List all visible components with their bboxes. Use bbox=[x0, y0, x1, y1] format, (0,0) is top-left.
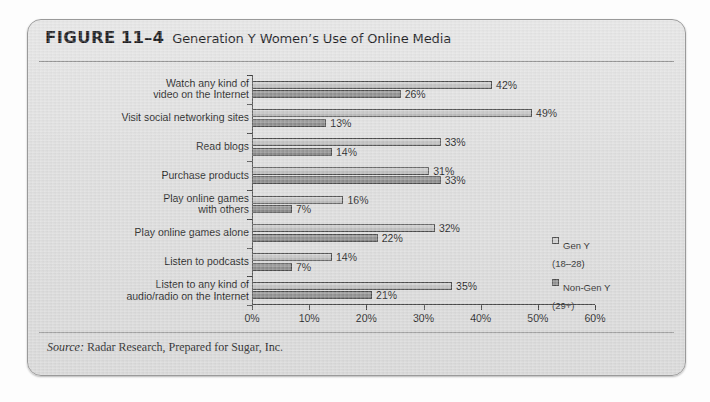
category-label: Read blogs bbox=[49, 141, 249, 153]
chart-legend: Gen Y (18–28)Non-Gen Y (29+) bbox=[552, 235, 632, 319]
category-tick bbox=[247, 248, 252, 249]
bar-value-label: 26% bbox=[405, 89, 426, 99]
bar-non-gen-y bbox=[252, 205, 292, 213]
category-tick bbox=[247, 104, 252, 105]
bar-value-label: 33% bbox=[445, 175, 466, 185]
chart-area: Watch any kind of video on the InternetV… bbox=[28, 62, 686, 320]
category-label: Play online games alone bbox=[49, 227, 249, 239]
bar-gen-y bbox=[252, 224, 435, 232]
figure-number: 11–4 bbox=[121, 28, 165, 47]
category-axis-labels: Watch any kind of video on the InternetV… bbox=[132, 75, 249, 305]
category-tick bbox=[247, 75, 252, 76]
category-label: Listen to any kind of audio/radio on the… bbox=[49, 279, 249, 302]
bar-non-gen-y bbox=[252, 234, 378, 242]
bar-gen-y bbox=[252, 167, 429, 175]
plot-region: 42%26%49%13%33%14%31%33%16%7%32%22%14%7%… bbox=[252, 75, 595, 305]
bar-non-gen-y bbox=[252, 291, 372, 299]
x-axis-tick bbox=[309, 305, 310, 310]
legend-label: Non-Gen Y (29+) bbox=[552, 282, 610, 311]
legend-swatch-non-gen-y bbox=[552, 279, 559, 286]
figure-label-word: FIGURE bbox=[45, 28, 116, 47]
bar-value-label: 32% bbox=[439, 223, 460, 233]
figure-panel: FIGURE11–4Generation Y Women’s Use of On… bbox=[27, 19, 686, 376]
legend-item: Non-Gen Y (29+) bbox=[552, 277, 632, 313]
category-label: Listen to podcasts bbox=[49, 256, 249, 268]
bar-value-label: 33% bbox=[445, 137, 466, 147]
x-axis-tick bbox=[481, 305, 482, 310]
legend-label: Gen Y (18–28) bbox=[552, 240, 590, 269]
category-tick bbox=[247, 133, 252, 134]
x-axis-tick-label: 20% bbox=[344, 312, 388, 324]
category-tick bbox=[247, 305, 252, 306]
bar-value-label: 49% bbox=[536, 108, 557, 118]
bar-non-gen-y bbox=[252, 263, 292, 271]
x-axis-tick-label: 40% bbox=[459, 312, 503, 324]
bar-value-label: 7% bbox=[296, 204, 311, 214]
bar-gen-y bbox=[252, 81, 492, 89]
category-tick bbox=[247, 219, 252, 220]
bar-non-gen-y bbox=[252, 176, 441, 184]
x-axis-tick-label: 30% bbox=[402, 312, 446, 324]
bar-gen-y bbox=[252, 253, 332, 261]
bar-non-gen-y bbox=[252, 119, 326, 127]
category-label: Purchase products bbox=[49, 170, 249, 182]
bar-value-label: 22% bbox=[382, 233, 403, 243]
bar-non-gen-y bbox=[252, 90, 401, 98]
figure-caption: FIGURE11–4Generation Y Women’s Use of On… bbox=[45, 28, 451, 47]
bar-non-gen-y bbox=[252, 148, 332, 156]
category-label: Visit social networking sites bbox=[49, 112, 249, 124]
bar-value-label: 14% bbox=[336, 252, 357, 262]
legend-item: Gen Y (18–28) bbox=[552, 235, 632, 271]
category-label: Watch any kind of video on the Internet bbox=[49, 78, 249, 101]
source-label: Source: bbox=[47, 340, 84, 354]
bar-value-label: 7% bbox=[296, 262, 311, 272]
category-label: Play online games with others bbox=[49, 193, 249, 216]
figure-title: Generation Y Women’s Use of Online Media bbox=[172, 31, 451, 46]
category-tick bbox=[247, 161, 252, 162]
bar-value-label: 16% bbox=[347, 195, 368, 205]
figure-header: FIGURE11–4Generation Y Women’s Use of On… bbox=[28, 20, 685, 60]
category-tick bbox=[247, 276, 252, 277]
bar-value-label: 42% bbox=[496, 80, 517, 90]
source-note: Source: Radar Research, Prepared for Sug… bbox=[47, 340, 283, 355]
x-axis-tick-label: 0% bbox=[230, 312, 274, 324]
bar-value-label: 35% bbox=[456, 281, 477, 291]
source-text: Radar Research, Prepared for Sugar, Inc. bbox=[84, 340, 283, 354]
footer-divider bbox=[39, 332, 674, 333]
category-tick bbox=[247, 190, 252, 191]
x-axis-tick bbox=[538, 305, 539, 310]
bar-gen-y bbox=[252, 109, 532, 117]
x-axis-tick bbox=[424, 305, 425, 310]
x-axis-tick-label: 10% bbox=[287, 312, 331, 324]
bar-value-label: 13% bbox=[330, 118, 351, 128]
bar-value-label: 14% bbox=[336, 147, 357, 157]
bar-gen-y bbox=[252, 282, 452, 290]
legend-swatch-gen-y bbox=[552, 237, 559, 244]
bar-gen-y bbox=[252, 138, 441, 146]
x-axis-tick bbox=[366, 305, 367, 310]
bar-value-label: 21% bbox=[376, 290, 397, 300]
x-axis-tick bbox=[252, 305, 253, 310]
